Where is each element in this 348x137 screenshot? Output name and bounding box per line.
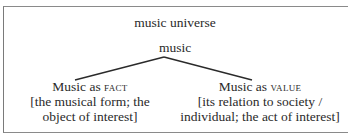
branch-fact-desc-1: [the musical form; the (15, 94, 165, 109)
branch-fact-label: Music as FACT (15, 79, 165, 94)
branch-value-desc-2: individual; the act of interest] (175, 109, 345, 124)
branch-value-desc-1: [its relation to society / (175, 94, 345, 109)
edge-to-value (164, 57, 252, 80)
branch-fact: Music as FACT [the musical form; the obj… (15, 79, 165, 124)
branch-value-label: Music as VALUE (175, 79, 345, 94)
edge-to-fact (75, 57, 164, 80)
fact-keyword: FACT (104, 79, 128, 94)
value-keyword: VALUE (270, 79, 301, 94)
branch-value: Music as VALUE [its relation to society … (175, 79, 345, 124)
branch-fact-desc-2: object of interest] (15, 109, 165, 124)
